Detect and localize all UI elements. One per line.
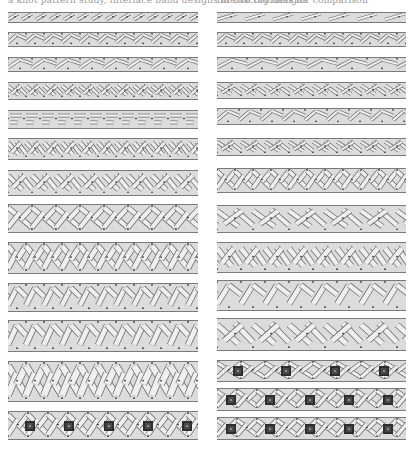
- inset-square-icon: [64, 421, 74, 431]
- inset-square-icon: [344, 395, 354, 405]
- inset-square-icon: [104, 421, 114, 431]
- knot-pattern-icon: [217, 109, 406, 124]
- knot-pattern-icon: [8, 321, 198, 351]
- knot-pattern-icon: [8, 412, 198, 439]
- knot-pattern-icon: [8, 171, 198, 195]
- interlace-band: [8, 283, 198, 312]
- interlace-band: [217, 388, 406, 411]
- knot-pattern-icon: [8, 139, 198, 159]
- interlace-band: [217, 32, 406, 47]
- knot-pattern-icon: [217, 319, 406, 350]
- interlace-band: [217, 205, 406, 233]
- knot-pattern-icon: [217, 206, 406, 232]
- inset-square-icon: [265, 395, 275, 405]
- knot-pattern-icon: [217, 139, 406, 155]
- interlace-band: [217, 168, 406, 193]
- inset-square-icon: [226, 395, 236, 405]
- knot-pattern-icon: [8, 83, 198, 99]
- interlace-band: [8, 320, 198, 352]
- inset-square-icon: [233, 366, 243, 376]
- interlace-band: [217, 138, 406, 156]
- interlace-band: [217, 318, 406, 351]
- interlace-band: [217, 417, 406, 440]
- knot-pattern-icon: [8, 284, 198, 311]
- inset-square-icon: [305, 395, 315, 405]
- interlace-band: [8, 12, 198, 23]
- interlace-band: [217, 360, 406, 382]
- inset-square-icon: [383, 395, 393, 405]
- knot-pattern-icon: [217, 83, 406, 98]
- inset-square-icon: [344, 424, 354, 434]
- interlace-band: [8, 57, 198, 72]
- knot-pattern-icon: [8, 13, 198, 22]
- inset-square-icon: [330, 366, 340, 376]
- interlace-band: [217, 108, 406, 125]
- interlace-band: [8, 242, 198, 274]
- interlace-band: [217, 280, 406, 311]
- knot-pattern-icon: [8, 111, 198, 128]
- knot-pattern-icon: [8, 58, 198, 71]
- interlace-band: [8, 204, 198, 233]
- interlace-band: [217, 57, 406, 72]
- inset-square-icon: [25, 421, 35, 431]
- knot-pattern-icon: [8, 243, 198, 273]
- knot-pattern-icon: [217, 33, 406, 46]
- interlace-band: [8, 110, 198, 129]
- knot-pattern-icon: [8, 33, 198, 46]
- interlace-band: [8, 411, 198, 440]
- interlace-band: [8, 82, 198, 100]
- inset-square-icon: [226, 424, 236, 434]
- inset-square-icon: [265, 424, 275, 434]
- interlace-band: [8, 170, 198, 196]
- interlace-band: [8, 138, 198, 160]
- inset-square-icon: [182, 421, 192, 431]
- interlace-band: [8, 361, 198, 402]
- interlace-band: [217, 82, 406, 99]
- caption-right: interlacing designs: [217, 0, 308, 5]
- knot-pattern-icon: [8, 362, 198, 401]
- interlace-band: [8, 32, 198, 47]
- knot-pattern-icon: [217, 281, 406, 310]
- inset-square-icon: [143, 421, 153, 431]
- interlace-band: [217, 12, 406, 23]
- inset-square-icon: [305, 424, 315, 434]
- knot-pattern-icon: [217, 361, 406, 381]
- inset-square-icon: [383, 424, 393, 434]
- interlace-band: [217, 242, 406, 273]
- caption-left: a knot pattern study, interlace band des…: [8, 0, 368, 5]
- knot-pattern-icon: [8, 205, 198, 232]
- inset-square-icon: [281, 366, 291, 376]
- knot-pattern-icon: [217, 243, 406, 272]
- inset-square-icon: [379, 366, 389, 376]
- knot-pattern-icon: [217, 13, 406, 22]
- knot-pattern-icon: [217, 169, 406, 192]
- knot-pattern-icon: [217, 58, 406, 71]
